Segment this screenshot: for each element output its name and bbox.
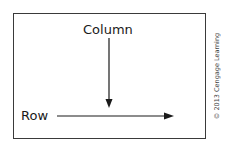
row-arrow-icon [57, 113, 174, 120]
copyright-notice: © 2013 Cengage Learning [213, 33, 221, 119]
column-arrow-icon [106, 38, 113, 108]
arrows-layer [0, 0, 227, 154]
